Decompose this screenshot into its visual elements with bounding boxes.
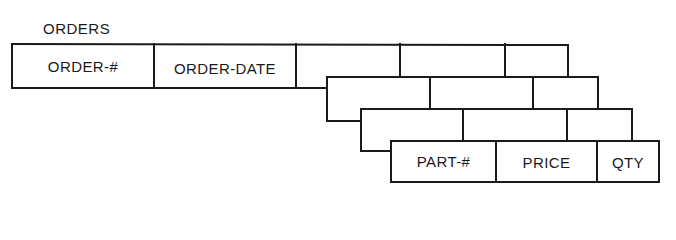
field-part-number: PART-# [391, 141, 496, 182]
field-order-number: ORDER-# [12, 45, 154, 88]
field-qty: QTY [597, 142, 659, 183]
field-order-date: ORDER-DATE [154, 47, 296, 90]
field-price: PRICE [496, 142, 597, 183]
